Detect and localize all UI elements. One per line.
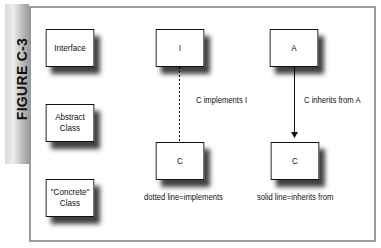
- class-c-inherits-box: C: [271, 142, 320, 180]
- abstract-a-label: A: [291, 43, 296, 54]
- abstract-a-box: A: [270, 29, 319, 67]
- interface-i-label: I: [179, 43, 181, 54]
- class-c-implements-box: C: [156, 142, 205, 180]
- class-c-inherits-label: C: [292, 156, 298, 167]
- implements-caption: dotted line=implements: [144, 192, 223, 202]
- class-c-implements-label: C: [177, 156, 183, 167]
- inherits-relation-label: C inherits from A: [304, 95, 361, 105]
- implements-relation-label: C implements I: [196, 95, 247, 105]
- inherits-caption: solid line=inherits from: [257, 192, 333, 202]
- interface-i-box: I: [156, 29, 205, 67]
- arrowhead-icon: [291, 132, 298, 138]
